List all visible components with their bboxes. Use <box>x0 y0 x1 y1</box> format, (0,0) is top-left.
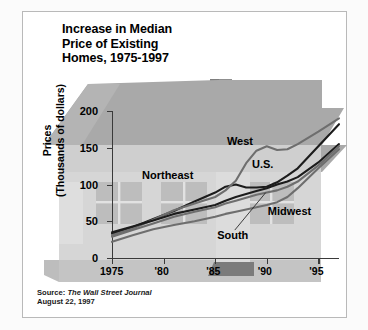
chart-title: Increase in Median Price of Existing Hom… <box>62 22 292 66</box>
data-line-midwest <box>112 149 339 242</box>
chart-title-line-2: Price of Existing <box>62 37 292 52</box>
data-line-us <box>112 144 339 232</box>
source-note: Source: The Wall Street Journal August 2… <box>37 288 152 307</box>
chart-title-line-1: Increase in Median <box>62 22 292 37</box>
source-prefix: Source: <box>37 288 67 297</box>
chart-plot-area: Prices (Thousands of dollars) 0501001502… <box>22 70 347 285</box>
chart-title-line-3: Homes, 1975-1997 <box>62 51 292 66</box>
screenshot-canvas: Increase in Median Price of Existing Hom… <box>0 0 368 330</box>
series-label-us: U.S. <box>252 158 273 170</box>
series-label-northeast: Northeast <box>142 169 193 181</box>
series-label-west: West <box>227 135 253 147</box>
source-publication: The Wall Street Journal <box>67 288 151 297</box>
series-label-south: South <box>217 229 248 241</box>
series-label-midwest: Midwest <box>268 205 311 217</box>
source-line-1: Source: The Wall Street Journal <box>37 288 152 297</box>
source-line-2: August 22, 1997 <box>37 297 152 306</box>
